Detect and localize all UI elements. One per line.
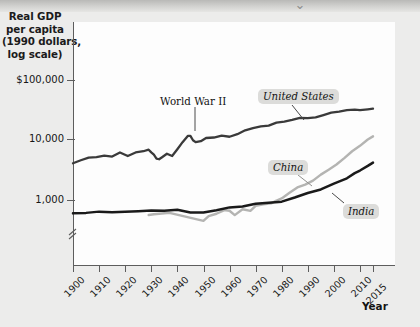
x-tick-1950: [204, 265, 205, 272]
scan-nick-mark: ⌄: [292, 0, 308, 10]
chart-figure: ⌄ Real GDP per capita (1990 dollars, log…: [0, 0, 420, 327]
plot-area: [73, 22, 395, 265]
y-tick-100000: [67, 80, 75, 81]
y-axis-title-line-3: (1990 dollars,: [2, 35, 68, 48]
x-axis-line: [73, 265, 395, 266]
x-tick-1940: [177, 265, 178, 272]
axis-break-icon: [66, 222, 82, 242]
x-tick-1930: [151, 265, 152, 272]
y-axis-title-line-4: log scale): [2, 48, 68, 61]
x-tick-1990: [308, 265, 309, 272]
y-axis-title-line-2: per capita: [2, 23, 68, 36]
x-tick-1900: [73, 265, 74, 272]
x-tick-1960: [230, 265, 231, 272]
y-axis-title: Real GDP per capita (1990 dollars, log s…: [2, 10, 68, 60]
x-tick-1970: [256, 265, 257, 272]
annotation-india: India: [343, 204, 379, 219]
x-tick-2000: [334, 265, 335, 272]
x-axis-title: Year: [362, 300, 388, 312]
y-tick-label-1000: 1,000: [35, 194, 64, 205]
annotation-world-war-ii: World War II: [160, 95, 226, 107]
x-tick-1980: [282, 265, 283, 272]
annotation-united-states: United States: [258, 89, 339, 104]
y-axis-title-line-1: Real GDP: [2, 10, 68, 23]
y-tick-1000: [67, 200, 75, 201]
y-tick-label-100000: $100,000: [16, 74, 64, 85]
x-tick-2010: [360, 265, 361, 272]
x-tick-1920: [125, 265, 126, 272]
x-tick-2015: [373, 265, 374, 272]
annotation-china: China: [268, 160, 308, 175]
x-tick-1910: [99, 265, 100, 272]
y-tick-label-10000: 10,000: [29, 133, 64, 144]
y-tick-10000: [67, 139, 75, 140]
